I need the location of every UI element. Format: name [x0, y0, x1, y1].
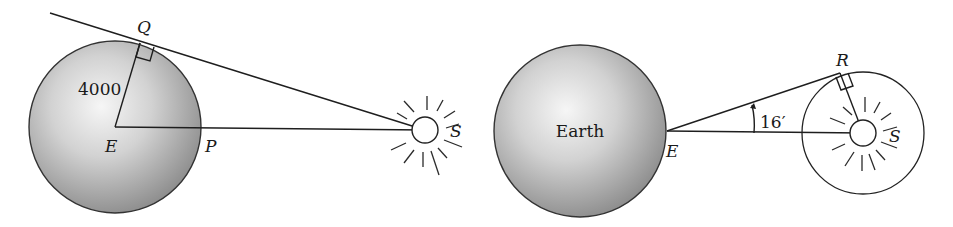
- label-e-left: E: [104, 136, 118, 156]
- tangent-line-er: [667, 73, 840, 131]
- label-r: R: [835, 50, 849, 70]
- label-p: P: [204, 136, 217, 156]
- label-radius: 4000: [78, 79, 121, 99]
- sun-disc-left: [412, 117, 438, 143]
- label-s-right: S: [889, 126, 901, 146]
- sun-right: [830, 97, 897, 171]
- label-angle: 16′: [760, 112, 786, 132]
- label-q: Q: [137, 17, 151, 37]
- left-panel: Q 4000 E P S: [29, 13, 462, 213]
- diagram-canvas: Q 4000 E P S Earth: [0, 0, 953, 227]
- sun-disc-right: [850, 120, 876, 146]
- label-earth: Earth: [556, 121, 605, 141]
- label-e-right: E: [665, 141, 679, 161]
- angle-arc: [752, 105, 754, 133]
- label-s-left: S: [450, 121, 462, 141]
- angle-arrow-icon: [750, 103, 756, 109]
- right-panel: Earth: [494, 45, 924, 217]
